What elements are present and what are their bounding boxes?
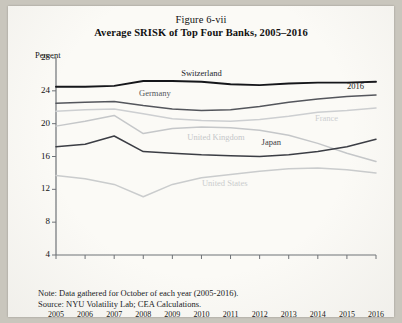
line-chart-svg [56,58,376,255]
series-label-germany: Germany [139,88,171,98]
y-tick-16: 16 [28,151,50,161]
chart-axes [52,58,376,259]
figure-source: Source: NYU Volatility Lab; CEA Calculat… [38,299,201,309]
y-tick-28: 28 [28,52,50,62]
series-label-japan: Japan [262,137,281,147]
figure-number: Figure 6-vii [8,14,394,25]
y-tick-8: 8 [28,216,50,226]
y-tick-20: 20 [28,118,50,128]
y-tick-12: 12 [28,183,50,193]
y-tick-4: 4 [28,249,50,259]
figure-note: Note: Data gathered for October of each … [38,288,238,298]
right-year-annotation: 2016 [347,81,364,91]
series-label-united-states: United States [202,178,248,188]
chart-plot-area: 481216202428 200520062007200820092010201… [56,58,376,255]
figure-title: Average SRISK of Top Four Banks, 2005–20… [8,27,394,38]
series-label-united-kingdom: United Kingdom [187,132,244,142]
series-label-france: France [315,113,338,123]
figure-page: Figure 6-vii Average SRISK of Top Four B… [8,6,394,317]
series-label-switzerland: Switzerland [181,68,222,78]
x-tick-2016: 2016 [359,310,393,319]
y-tick-24: 24 [28,85,50,95]
